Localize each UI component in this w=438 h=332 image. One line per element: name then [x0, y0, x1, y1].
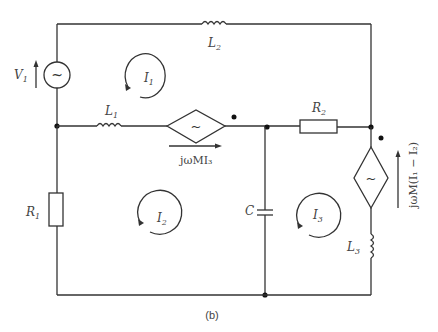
label-I2: I2 [156, 211, 167, 227]
v1-source: ~ [34, 24, 71, 126]
dependent-source-icon: ~ [366, 171, 377, 186]
label-dep-source-1: jωMI₃ [178, 154, 212, 167]
label-I3: I3 [312, 208, 323, 224]
right-branch: ~ [354, 127, 388, 295]
label-R1: R1 [25, 205, 40, 221]
ac-source-icon: ~ [51, 67, 63, 83]
label-L3: L3 [346, 240, 360, 256]
label-L1: L1 [104, 104, 118, 120]
label-L2: L2 [207, 36, 221, 52]
label-V1: V1 [14, 68, 28, 84]
label-I1: I1 [143, 71, 154, 87]
label-dep-source-2: jωM(I₁ − I₂) [407, 142, 420, 210]
label-C: C [245, 204, 254, 218]
label-R2: R2 [311, 101, 326, 117]
figure-caption: (b) [205, 309, 218, 321]
dependent-source-icon: ~ [191, 119, 202, 134]
circuit-diagram: L2 ~ V1 I1 ~ L1 R2 jωMI₃ R1 I2 [0, 0, 438, 332]
middle-wire: ~ [54, 110, 383, 143]
arrow-up-icon [34, 60, 39, 67]
